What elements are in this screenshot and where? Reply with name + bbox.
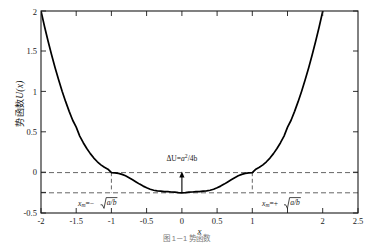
x-tick-label: 0 bbox=[180, 216, 184, 226]
barrier-annotation: ΔU=a2/4b bbox=[166, 153, 197, 163]
x-tick-label: -1.5 bbox=[69, 216, 82, 226]
x-tick-labels: -2 -1.5 -1 -0.5 0 0.5 1 2 2.5 bbox=[37, 216, 363, 226]
y-tick-label: 2 bbox=[33, 7, 37, 17]
y-axis-title: 势函数U(x) bbox=[13, 44, 26, 164]
x-tick-label: 2 bbox=[321, 216, 325, 226]
barrier-head: ΔU= bbox=[166, 154, 181, 163]
svg-text:xm=+: xm=+ bbox=[261, 199, 278, 209]
y-tick-label: -0.5 bbox=[24, 208, 37, 218]
x-tick-label: -1 bbox=[108, 216, 115, 226]
chart-root: 2 1.5 1 0.5 0 -0.5 -2 -1.5 -1 -0.5 0 0.5… bbox=[0, 0, 373, 250]
left-eq: =− bbox=[85, 199, 94, 208]
y-axis-title-fn: U bbox=[15, 92, 25, 99]
figure-caption: 图 1－1 势函数 bbox=[0, 232, 373, 246]
potential-function-plot: 2 1.5 1 0.5 0 -0.5 -2 -1.5 -1 -0.5 0 0.5… bbox=[0, 0, 373, 250]
plot-background bbox=[41, 11, 358, 213]
y-tick-label: 0.5 bbox=[26, 127, 37, 137]
y-axis-title-arg: (x) bbox=[15, 80, 25, 91]
x-tick-label: 1 bbox=[250, 216, 254, 226]
y-tick-label: 1.5 bbox=[26, 46, 37, 56]
x-tick-label: 0.5 bbox=[212, 216, 223, 226]
svg-text:ΔU=a2/4b: ΔU=a2/4b bbox=[166, 153, 197, 163]
x-tick-label: -2 bbox=[37, 216, 44, 226]
x-tick-label: 2.5 bbox=[353, 216, 364, 226]
y-axis-title-cn: 势函数 bbox=[15, 99, 25, 127]
right-eq: =+ bbox=[269, 199, 278, 208]
left-radicand: a/b bbox=[107, 198, 117, 207]
y-tick-label: 1 bbox=[33, 87, 37, 97]
y-tick-label: 0 bbox=[33, 167, 37, 177]
y-tick-labels: 2 1.5 1 0.5 0 -0.5 bbox=[24, 7, 37, 219]
right-radicand: a/b bbox=[290, 198, 300, 207]
barrier-den: /4b bbox=[188, 154, 198, 163]
svg-text:xm=−: xm=− bbox=[77, 199, 94, 209]
x-tick-label: -0.5 bbox=[140, 216, 153, 226]
